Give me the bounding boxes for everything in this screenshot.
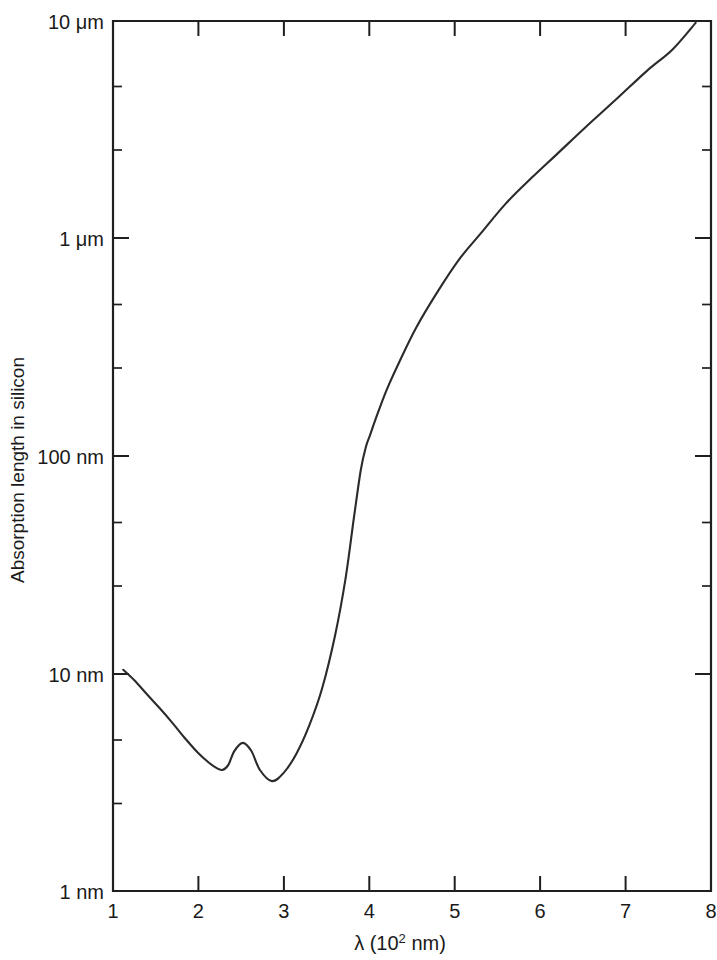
x-axis-title-tail: nm) [406,932,446,954]
x-tick-label-8: 8 [705,900,716,922]
x-tick-label-4: 4 [364,900,375,922]
chart-canvas: 10 μm 1 μm 100 nm 10 nm 1 nm 1 2 3 4 5 6… [0,0,717,960]
x-tick-label-7: 7 [620,900,631,922]
x-tick-label-6: 6 [535,900,546,922]
x-axis-title-exponent: 2 [399,931,406,946]
x-tick-label-2: 2 [193,900,204,922]
x-axis-title: λ (102 nm) [354,931,446,954]
x-tick-label-1: 1 [107,900,118,922]
y-axis-title: Absorption length in silicon [7,357,28,583]
absorption-length-chart: 10 μm 1 μm 100 nm 10 nm 1 nm 1 2 3 4 5 6… [0,0,717,960]
right-axis-ticks [695,21,711,674]
x-axis-ticks [198,21,625,891]
x-axis-title-base: λ (10 [354,932,398,954]
x-tick-label-3: 3 [278,900,289,922]
y-axis-minor-ticks [113,87,122,804]
x-axis-tick-labels: 1 2 3 4 5 6 7 8 [107,900,716,922]
x-tick-label-5: 5 [449,900,460,922]
absorption-length-curve [123,23,695,781]
y-tick-label-10nm: 10 nm [48,664,104,686]
y-axis-major-ticks [113,21,129,891]
axis-frame [113,21,711,891]
y-axis-tick-labels: 10 μm 1 μm 100 nm 10 nm 1 nm [37,11,104,903]
plot-frame [113,21,711,891]
y-tick-label-100nm: 100 nm [37,446,104,468]
y-tick-label-10um: 10 μm [48,11,104,33]
y-tick-label-1nm: 1 nm [60,881,104,903]
y-tick-label-1um: 1 μm [59,228,104,250]
